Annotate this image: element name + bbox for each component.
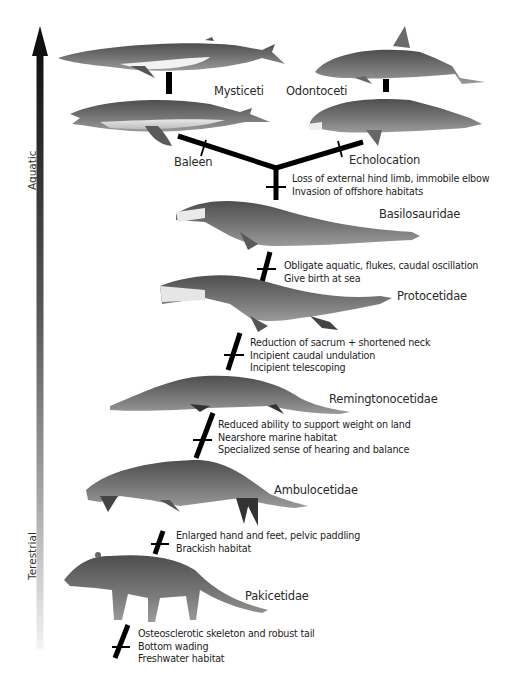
traits-ancestral: Osteosclerotic skeleton and robust tail … [138,628,315,666]
branch-segment [196,413,213,458]
dolphin-illustration [315,26,485,84]
trait-text: Osteosclerotic skeleton and robust tail [138,628,315,641]
trait-text: Invasion of offshore habitats [292,186,489,199]
trait-text: Enlarged hand and feet, pelvic paddling [176,530,360,543]
label-protocetidae: Protocetidae [397,289,467,303]
fin-whale-illustration [58,37,285,78]
remingtonocetid-illustration [110,376,350,414]
trait-text: Incipient telescoping [250,362,430,375]
trait-text: Obligate aquatic, flukes, caudal oscilla… [284,260,478,273]
branch-segment [228,333,240,370]
traits-remingtonocetidae: Reduction of sacrum + shortened neck Inc… [250,337,430,375]
label-basilosauridae: Basilosauridae [379,207,460,221]
connector-mysticeti [166,72,172,94]
trait-text: Give birth at sea [284,273,478,286]
label-remingtonocetidae: Remingtonocetidae [329,392,438,406]
traits-ambulocetidae: Reduced ability to support weight on lan… [218,419,411,457]
trait-text: Incipient caudal undulation [250,350,430,363]
axis-label-aquatic: Aquatic [26,150,38,190]
early-odontocete-illustration [308,99,482,146]
traits-basilosauridae: Loss of external hind limb, immobile elb… [292,173,489,198]
traits-pakicetidae: Enlarged hand and feet, pelvic paddling … [176,530,360,555]
pakicetid-illustration [64,552,268,622]
trait-text: Freshwater habitat [138,653,315,666]
label-mysticeti: Mysticeti [214,84,264,98]
trait-text: Reduced ability to support weight on lan… [218,419,411,432]
trait-text: Nearshore marine habitat [218,432,411,445]
branch-segment [262,252,270,282]
trait-text: Brackish habitat [176,543,360,556]
axis-label-terrestrial: Terestrial [26,532,38,580]
label-echolocation: Echolocation [349,153,420,167]
branch-segment [115,625,128,658]
label-baleen: Baleen [174,155,212,169]
label-ambulocetidae: Ambulocetidae [274,483,358,497]
trait-text: Reduction of sacrum + shortened neck [250,337,430,350]
label-odontoceti: Odontoceti [286,84,347,98]
trait-text: Loss of external hind limb, immobile elb… [292,173,489,186]
early-mysticete-illustration [70,100,270,146]
trait-text: Specialized sense of hearing and balance [218,444,411,457]
branch-segment [155,531,163,554]
connector-odontoceti [383,79,389,92]
trait-text: Bottom wading [138,641,315,654]
traits-protocetidae: Obligate aquatic, flukes, caudal oscilla… [284,260,478,285]
label-pakicetidae: Pakicetidae [245,589,309,603]
